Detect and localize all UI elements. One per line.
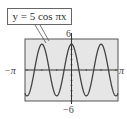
equation-text: y = 5 cos πx bbox=[13, 10, 67, 22]
equation-label: y = 5 cos πx bbox=[7, 8, 72, 25]
x-min-label: −π bbox=[4, 66, 16, 76]
y-max-label: 6 bbox=[66, 29, 71, 39]
y-min-label: −6 bbox=[63, 105, 74, 115]
x-max-label: π bbox=[119, 66, 124, 76]
